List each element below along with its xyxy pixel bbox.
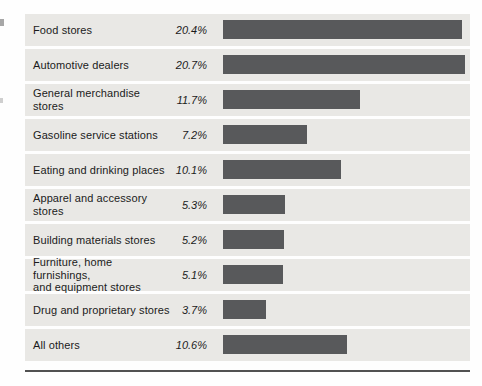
bar — [223, 230, 284, 249]
bar-track — [223, 265, 470, 284]
bar — [223, 300, 266, 319]
chart-row: General merchandise stores 11.7% — [25, 84, 470, 116]
chart-row: All others 10.6% — [25, 329, 470, 361]
chart-row: Drug and proprietary stores 3.7% — [25, 294, 470, 326]
value-label: 10.6% — [170, 339, 207, 351]
category-label: Drug and proprietary stores — [33, 304, 170, 317]
category-label: Furniture, home furnishings, and equipme… — [33, 256, 170, 294]
chart-row: Automotive dealers 20.7% — [25, 49, 470, 81]
value-label: 5.1% — [170, 269, 207, 281]
chart-row: Building materials stores 5.2% — [25, 224, 470, 256]
category-label: General merchandise stores — [33, 87, 170, 112]
bar-track — [223, 230, 470, 249]
bar-track — [223, 55, 470, 74]
bar-track — [223, 20, 470, 39]
bar-track — [223, 160, 470, 179]
bar-track — [223, 125, 470, 144]
category-label: Food stores — [33, 24, 170, 37]
chart-row: Eating and drinking places 10.1% — [25, 154, 470, 186]
bottom-rule — [25, 370, 470, 372]
bar — [223, 125, 307, 144]
value-label: 5.3% — [170, 199, 207, 211]
bar-chart: Food stores 20.4% Automotive dealers 20.… — [25, 14, 470, 364]
value-label: 5.2% — [170, 234, 207, 246]
chart-row: Furniture, home furnishings, and equipme… — [25, 259, 470, 291]
category-label: Building materials stores — [33, 234, 170, 247]
bar-track — [223, 195, 470, 214]
bar — [223, 160, 341, 179]
category-label: All others — [33, 339, 170, 352]
value-label: 20.4% — [170, 24, 207, 36]
category-label: Eating and drinking places — [33, 164, 170, 177]
bar — [223, 55, 465, 74]
bar-track — [223, 300, 470, 319]
category-label: Gasoline service stations — [33, 129, 170, 142]
chart-row: Apparel and accessory stores 5.3% — [25, 189, 470, 221]
bar — [223, 90, 360, 109]
category-label: Automotive dealers — [33, 59, 170, 72]
bar — [223, 265, 283, 284]
value-label: 20.7% — [170, 59, 207, 71]
chart-row: Food stores 20.4% — [25, 14, 470, 46]
bar-track — [223, 90, 470, 109]
value-label: 3.7% — [170, 304, 207, 316]
page-edge-artifact — [0, 98, 3, 103]
page-edge-artifact — [0, 19, 4, 26]
chart-row: Gasoline service stations 7.2% — [25, 119, 470, 151]
value-label: 10.1% — [170, 164, 207, 176]
bar — [223, 20, 462, 39]
bar — [223, 195, 285, 214]
value-label: 7.2% — [170, 129, 207, 141]
bar — [223, 335, 347, 354]
bar-track — [223, 335, 470, 354]
value-label: 11.7% — [170, 94, 207, 106]
category-label: Apparel and accessory stores — [33, 192, 170, 217]
